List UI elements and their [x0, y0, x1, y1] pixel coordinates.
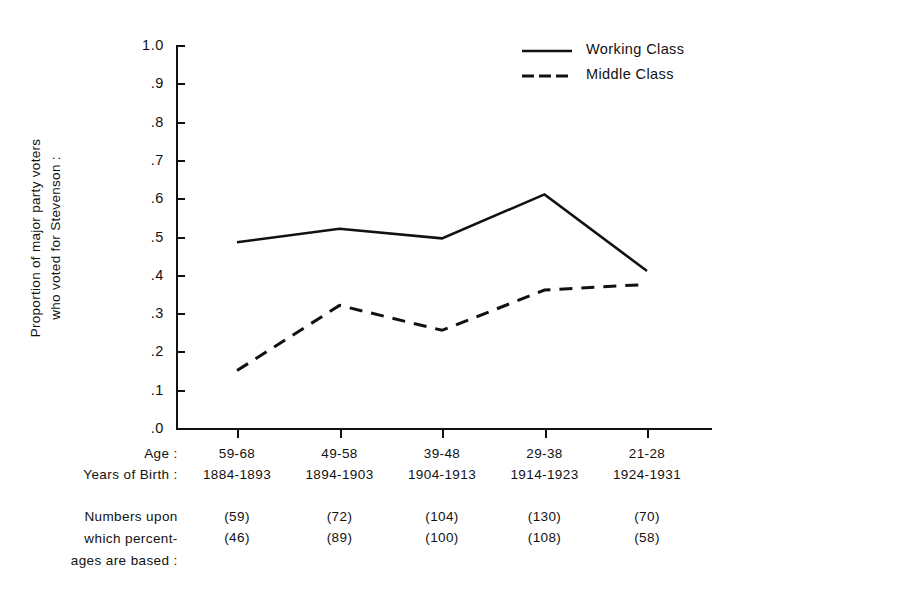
- x-tick: [647, 430, 649, 438]
- counts-label-line3: ages are based :: [0, 550, 178, 572]
- legend-item-working-class: Working Class: [520, 36, 684, 61]
- counts-label-line2: which percent-: [0, 528, 178, 550]
- y-tick: [176, 351, 185, 353]
- birth-values: 1884-18931894-19031904-19131914-19231924…: [186, 464, 699, 485]
- birth-row: Years of Birth : 1884-18931894-19031904-…: [0, 464, 900, 485]
- working-class-count: (130): [493, 506, 596, 527]
- birth-value: 1894-1903: [288, 464, 391, 485]
- working-class-count: (72): [288, 506, 391, 527]
- y-tick-label: .9: [124, 75, 164, 91]
- y-tick-label: .3: [124, 305, 164, 321]
- birth-value: 1924-1931: [596, 464, 699, 485]
- y-tick-label: .4: [124, 267, 164, 283]
- middle-class-count: (58): [596, 527, 699, 548]
- y-tick-label: .8: [124, 114, 164, 130]
- solid-line-icon: [520, 42, 574, 56]
- middle-class-counts: (46)(89)(100)(108)(58): [186, 527, 699, 548]
- series-working-class-line: [237, 194, 647, 271]
- middle-class-count: (108): [493, 527, 596, 548]
- working-class-count: (70): [596, 506, 699, 527]
- y-tick-label: .1: [124, 382, 164, 398]
- y-tick-label: .2: [124, 343, 164, 359]
- birth-value: 1884-1893: [186, 464, 289, 485]
- y-tick: [176, 83, 185, 85]
- birth-value: 1914-1923: [493, 464, 596, 485]
- y-tick: [176, 313, 185, 315]
- legend-item-middle-class: Middle Class: [520, 61, 684, 86]
- working-class-count: (104): [391, 506, 494, 527]
- y-tick-label: .6: [124, 190, 164, 206]
- y-axis-title-line2: who voted for Stevenson :: [46, 138, 66, 337]
- counts-row-label: Numbers upon which percent- ages are bas…: [0, 506, 186, 572]
- working-class-count: (59): [186, 506, 289, 527]
- y-tick-label: 1.0: [124, 37, 164, 53]
- age-row-label: Age :: [0, 443, 186, 464]
- y-tick: [176, 275, 185, 277]
- y-tick: [176, 428, 185, 430]
- counts-label-line1: Numbers upon: [0, 506, 178, 528]
- x-axis-line: [176, 428, 712, 430]
- x-tick: [442, 430, 444, 438]
- series-middle-class-line: [237, 284, 647, 370]
- y-axis-title-line1: Proportion of major party voters: [26, 138, 46, 337]
- counts-block: Numbers upon which percent- ages are bas…: [0, 506, 900, 572]
- age-value: 49-58: [288, 443, 391, 464]
- bottom-annotations: Age : 59-6849-5839-4829-3821-28 Years of…: [0, 443, 900, 572]
- y-tick: [176, 45, 185, 47]
- birth-row-label: Years of Birth :: [0, 464, 186, 485]
- chart-figure: Proportion of major party voters who vot…: [0, 0, 900, 591]
- dashed-line-icon: [520, 67, 574, 81]
- y-tick: [176, 237, 185, 239]
- birth-value: 1904-1913: [391, 464, 494, 485]
- y-tick: [176, 122, 185, 124]
- x-tick: [545, 430, 547, 438]
- y-axis-title: Proportion of major party voters who vot…: [14, 45, 78, 430]
- age-values: 59-6849-5839-4829-3821-28: [186, 443, 699, 464]
- x-tick: [340, 430, 342, 438]
- legend-label-working-class: Working Class: [586, 41, 684, 57]
- age-row: Age : 59-6849-5839-4829-3821-28: [0, 443, 900, 464]
- legend-label-middle-class: Middle Class: [586, 66, 674, 82]
- legend: Working Class Middle Class: [520, 36, 684, 86]
- y-tick: [176, 160, 185, 162]
- y-tick-label: .5: [124, 229, 164, 245]
- age-value: 21-28: [596, 443, 699, 464]
- middle-class-count: (46): [186, 527, 289, 548]
- age-value: 39-48: [391, 443, 494, 464]
- working-class-counts: (59)(72)(104)(130)(70): [186, 506, 699, 527]
- y-tick: [176, 390, 185, 392]
- x-tick: [237, 430, 239, 438]
- y-tick-label: .7: [124, 152, 164, 168]
- y-tick-label: .0: [124, 420, 164, 436]
- age-value: 29-38: [493, 443, 596, 464]
- y-tick: [176, 198, 185, 200]
- middle-class-count: (100): [391, 527, 494, 548]
- middle-class-count: (89): [288, 527, 391, 548]
- age-value: 59-68: [186, 443, 289, 464]
